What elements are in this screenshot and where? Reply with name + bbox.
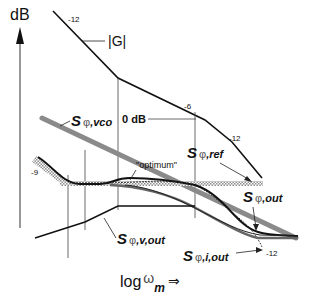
x-axis-label: logωm⇒ — [120, 270, 180, 295]
slope-label-g-3: -12 — [229, 134, 241, 143]
slope-label-i-out: -12 — [266, 249, 278, 258]
y-axis: dB — [10, 6, 30, 228]
s-ref-label: Sφ,ref — [187, 144, 225, 161]
slope-label-g-2: -6 — [184, 102, 192, 111]
open-loop-gain-curve: -12 |G| -6 -12 — [53, 11, 262, 178]
g-label: |G| — [108, 33, 126, 49]
x-axis-label-base: logωm⇒ — [120, 270, 180, 295]
double-arrow-right-icon: ⇒ — [168, 273, 180, 289]
s-v-out-curve: Sφ,v,out — [35, 206, 195, 247]
slope-label-left: -9 — [31, 168, 39, 177]
phase-noise-bode-diagram: dB -12 |G| -6 -12 0 dB Sφ,vco Sφ,ref — [0, 0, 311, 303]
arrow-icon — [256, 247, 263, 253]
s-vco-label: Sφ,vco — [71, 112, 112, 129]
y-axis-label: dB — [10, 6, 30, 23]
s-v-out-label: Sφ,v,out — [117, 230, 166, 247]
s-out-label: Sφ,out — [243, 188, 284, 205]
arrow-up-icon — [16, 27, 24, 44]
zero-db-label: 0 dB — [122, 113, 146, 125]
s-i-out-label: Sφ,i,out — [183, 247, 230, 264]
s-i-out-label-group: Sφ,i,out -12 — [183, 247, 278, 264]
slope-label-g-1: -12 — [68, 15, 80, 24]
vertical-guides — [68, 78, 118, 258]
optimum-label: "optimum" — [136, 160, 177, 170]
s-vco-curve: Sφ,vco — [42, 112, 296, 238]
